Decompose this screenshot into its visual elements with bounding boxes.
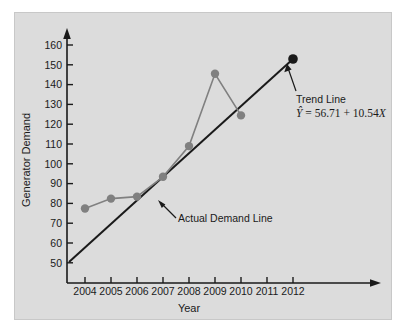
trend-line-annotation: Trend Line Ŷ = 56.71 + 10.54X [284,64,386,119]
x-axis-arrowhead [370,279,381,287]
x-tick-label-2008: 2008 [177,285,201,297]
actual-demand-markers [81,70,245,213]
x-axis-title: Year [178,302,201,314]
x-tick-label-2010: 2010 [229,285,253,297]
trend-line-equation-body: = 56.71 + 10.54 [302,107,378,119]
y-tick-label-80: 80 [50,197,62,209]
data-point-2012-forecast [288,54,298,64]
axes-group [63,28,381,287]
x-tick-label-2011: 2011 [256,285,279,297]
y-tick-label-90: 90 [50,177,62,189]
x-tick-label-2007: 2007 [151,285,175,297]
data-point-2008 [185,142,193,150]
x-axis-ticks [85,277,293,283]
x-tick-label-2005: 2005 [99,285,123,297]
x-tick-label-2004: 2004 [73,285,97,297]
chart-plot-area: 160 150 140 130 120 110 100 90 80 70 60 … [0,0,406,335]
actual-demand-annotation: Actual Demand Line [158,200,273,224]
y-tick-label-130: 130 [44,98,62,110]
y-tick-label-140: 140 [44,78,62,90]
y-tick-label-50: 50 [50,257,62,269]
data-point-2006 [133,192,141,200]
x-tick-label-2012: 2012 [281,285,305,297]
trend-line-equation-variable: X [378,107,387,119]
y-tick-label-60: 60 [50,237,62,249]
figure-container: 160 150 140 130 120 110 100 90 80 70 60 … [0,0,406,335]
data-point-2007 [159,173,167,181]
y-tick-label-70: 70 [50,217,62,229]
x-tick-label-2006: 2006 [125,285,149,297]
y-tick-label-120: 120 [44,118,62,130]
actual-demand-line [85,74,241,209]
y-tick-label-100: 100 [44,158,62,170]
y-axis-ticks [67,45,73,263]
actual-demand-annotation-label: Actual Demand Line [178,212,273,224]
x-axis-tick-labels: 2004 2005 2006 2007 2008 2009 2010 2011 … [73,285,305,297]
y-axis-tick-labels: 160 150 140 130 120 110 100 90 80 70 60 … [44,39,62,269]
trend-line-annotation-leader [288,68,296,91]
data-point-2005 [107,194,115,202]
trend-line [69,59,293,262]
y-axis-arrowhead [63,28,71,39]
y-tick-label-150: 150 [44,59,62,71]
data-point-2010 [237,111,245,119]
data-point-2004 [81,204,89,212]
y-tick-label-160: 160 [44,39,62,51]
x-tick-label-2009: 2009 [203,285,227,297]
y-tick-label-110: 110 [45,138,62,150]
data-point-2009 [211,70,219,78]
trend-line-annotation-label: Trend Line [296,93,346,105]
trend-line-equation: Ŷ = 56.71 + 10.54X [296,106,387,119]
y-axis-title: Generator Demand [20,113,32,207]
